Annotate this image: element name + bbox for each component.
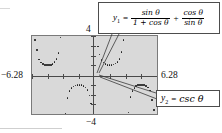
y1-lhs: y1: [113, 12, 120, 24]
y1-term2-denominator: sin θ: [182, 18, 204, 27]
bottom-rule: [0, 128, 62, 129]
y1-term1-fraction: sin θ 1 + cos θ: [131, 9, 170, 26]
y2-equation: y2 = csc θ: [161, 92, 215, 105]
y1-term1-denominator: 1 + cos θ: [131, 18, 170, 27]
y1-equation: y1 = sin θ 1 + cos θ + cos θ sin θ: [103, 5, 215, 31]
y2-equation-callout: y2 = csc θ: [156, 90, 220, 107]
y2-rhs: csc θ: [179, 93, 203, 104]
figure-container: −6.28 6.28 4 −4 y1 = sin θ 1 + cos θ + c…: [0, 0, 222, 133]
y2-equals: =: [170, 94, 177, 104]
y2-lhs: y2: [161, 93, 168, 105]
y1-plus-operator: +: [172, 13, 179, 23]
y1-term2-fraction: cos θ sin θ: [181, 9, 204, 26]
y1-equals: =: [122, 13, 129, 23]
y1-term1-numerator: sin θ: [140, 9, 162, 17]
y1-equation-callout: y1 = sin θ 1 + cos θ + cos θ sin θ: [98, 2, 220, 34]
y1-term2-numerator: cos θ: [181, 9, 204, 17]
